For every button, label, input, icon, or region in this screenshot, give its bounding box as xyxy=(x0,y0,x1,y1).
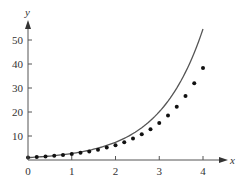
data-point xyxy=(175,105,179,109)
x-tick-label: 4 xyxy=(200,165,206,177)
chart: xy012341020304050 xyxy=(0,0,243,180)
y-axis-arrow-icon xyxy=(25,20,31,29)
y-axis-label: y xyxy=(24,6,30,18)
y-tick-label: 40 xyxy=(12,58,24,70)
data-point xyxy=(184,94,188,98)
data-point xyxy=(70,152,74,156)
y-tick-label: 20 xyxy=(12,106,24,118)
x-axis-label: x xyxy=(229,154,235,166)
data-point xyxy=(131,137,135,141)
data-point xyxy=(44,155,48,159)
data-point xyxy=(122,140,126,144)
x-tick-label: 0 xyxy=(25,165,31,177)
y-tick-label: 10 xyxy=(12,130,24,142)
y-tick-label: 50 xyxy=(12,34,24,46)
data-point xyxy=(52,154,56,158)
data-point xyxy=(79,151,83,155)
data-point xyxy=(192,81,196,85)
x-axis-arrow-icon xyxy=(219,157,228,163)
curve-line xyxy=(28,29,203,158)
x-tick-label: 3 xyxy=(157,165,163,177)
data-point xyxy=(87,149,91,153)
data-point xyxy=(140,132,144,136)
data-point xyxy=(166,114,170,118)
data-point xyxy=(149,127,153,131)
x-tick-label: 2 xyxy=(113,165,119,177)
data-point xyxy=(157,121,161,125)
data-point xyxy=(105,146,109,150)
data-point xyxy=(114,143,118,147)
x-tick-label: 1 xyxy=(69,165,75,177)
plot-area xyxy=(26,29,205,160)
data-point xyxy=(96,148,100,152)
data-point xyxy=(201,66,205,70)
data-point xyxy=(61,153,65,157)
y-tick-label: 30 xyxy=(12,82,24,94)
data-point xyxy=(35,155,39,159)
